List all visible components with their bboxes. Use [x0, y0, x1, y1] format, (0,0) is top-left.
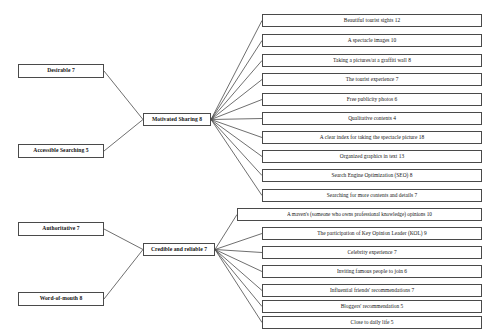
edge-wordofmouth: [104, 250, 143, 300]
leaf-node[interactable]: The participation of Key Opinion Leader …: [262, 227, 482, 240]
leaf-node-label: Free publicity photos 6: [347, 97, 397, 103]
node-motivated[interactable]: Motivated Sharing 8: [143, 113, 211, 126]
leaf-node[interactable]: Influential friends' recommendations 7: [262, 284, 482, 297]
edge-accessible: [104, 120, 143, 152]
leaf-node[interactable]: Organized graphics in text 13: [262, 150, 482, 163]
edge-leaf-8: [211, 120, 262, 176]
leaf-node[interactable]: Qualitative contents 4: [262, 112, 482, 125]
node-wordofmouth[interactable]: Word-of-mouth 8: [18, 292, 104, 306]
node-accessible-label: Accessible Searching 5: [33, 148, 88, 154]
edge-leaf-11: [215, 234, 262, 250]
edge-leaf-15: [215, 250, 262, 307]
edge-leaf-13: [215, 250, 262, 272]
edge-leaf-4: [211, 100, 262, 120]
edge-leaf-10: [215, 215, 237, 250]
leaf-node[interactable]: A maven's (someone who owns professional…: [237, 208, 482, 221]
leaf-node-label: A clear index for taking the spectacle p…: [320, 135, 424, 141]
leaf-node-label: The tourist experience 7: [346, 77, 399, 83]
edge-leaf-5: [211, 119, 262, 120]
leaf-node-label: Close to daily life 5: [351, 320, 394, 326]
edge-leaf-9: [211, 120, 262, 196]
node-authoritative[interactable]: Authoritative 7: [18, 222, 104, 236]
node-desirable-label: Desirable 7: [47, 68, 75, 74]
leaf-node-label: Inviting famous people to join 6: [337, 269, 407, 275]
leaf-node-label: Celebrity experience 7: [347, 250, 396, 256]
leaf-node[interactable]: Search Engine Optimization (SEO) 8: [262, 169, 482, 182]
edge-leaf-2: [211, 61, 262, 120]
edge-leaf-16: [215, 250, 262, 323]
leaf-node[interactable]: The tourist experience 7: [262, 73, 482, 86]
connector-lines: [0, 0, 488, 330]
leaf-node-label: Taking a pictures/at a graffiti wall 8: [333, 58, 411, 64]
node-credible-label: Credible and reliable 7: [151, 247, 207, 253]
leaf-node-label: A maven's (someone who owns professional…: [287, 212, 432, 218]
node-credible[interactable]: Credible and reliable 7: [143, 243, 215, 256]
node-wordofmouth-label: Word-of-mouth 8: [40, 296, 83, 302]
edge-leaf-14: [215, 250, 262, 291]
leaf-node-label: A spectacle images 10: [348, 38, 396, 44]
edge-leaf-3: [211, 80, 262, 120]
leaf-node[interactable]: Bloggers' recommendation 5: [262, 300, 482, 313]
edge-leaf-1: [211, 41, 262, 120]
edge-desirable: [104, 71, 143, 120]
node-accessible[interactable]: Accessible Searching 5: [18, 144, 104, 158]
leaf-node-label: The participation of Key Opinion Leader …: [317, 231, 426, 237]
leaf-node-label: Organized graphics in text 13: [340, 154, 404, 160]
node-desirable[interactable]: Desirable 7: [18, 64, 104, 78]
edge-leaf-0: [211, 21, 262, 120]
leaf-node[interactable]: Beautiful tourist sights 12: [262, 14, 482, 27]
leaf-node-label: Qualitative contents 4: [348, 116, 396, 122]
edge-leaf-12: [215, 250, 262, 253]
leaf-node-label: Bloggers' recommendation 5: [341, 304, 404, 310]
leaf-node-label: Beautiful tourist sights 12: [344, 18, 400, 24]
leaf-node[interactable]: Taking a pictures/at a graffiti wall 8: [262, 54, 482, 67]
node-authoritative-label: Authoritative 7: [42, 226, 79, 232]
leaf-node[interactable]: A spectacle images 10: [262, 34, 482, 47]
leaf-node[interactable]: Celebrity experience 7: [262, 246, 482, 259]
leaf-node[interactable]: Free publicity photos 6: [262, 93, 482, 106]
leaf-node-label: Search Engine Optimization (SEO) 8: [332, 173, 413, 179]
leaf-node-label: Influential friends' recommendations 7: [330, 288, 414, 294]
leaf-node[interactable]: A clear index for taking the spectacle p…: [262, 131, 482, 144]
node-motivated-label: Motivated Sharing 8: [152, 117, 202, 123]
edge-authoritative: [104, 229, 143, 250]
leaf-node[interactable]: Searching for more contents and details …: [262, 189, 482, 202]
leaf-node-label: Searching for more contents and details …: [327, 193, 417, 199]
leaf-node[interactable]: Close to daily life 5: [262, 316, 482, 329]
edge-leaf-7: [211, 120, 262, 157]
leaf-node[interactable]: Inviting famous people to join 6: [262, 265, 482, 278]
edge-leaf-6: [211, 120, 262, 138]
diagram-canvas: Desirable 7Accessible Searching 5Authori…: [0, 0, 488, 330]
